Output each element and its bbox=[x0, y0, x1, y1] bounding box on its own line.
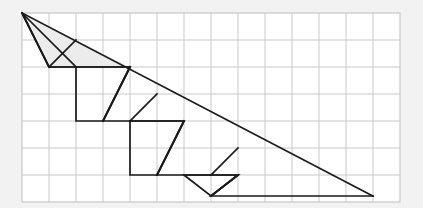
figure-canvas bbox=[0, 0, 423, 208]
geometry-figure bbox=[0, 0, 423, 208]
